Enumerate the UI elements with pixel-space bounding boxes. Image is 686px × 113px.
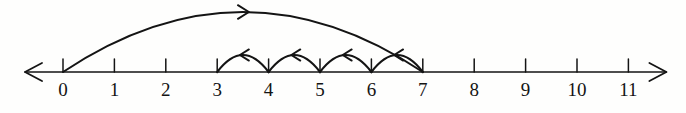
number-line-figure: 01234567891011 (0, 0, 686, 113)
tick-label-4: 4 (249, 80, 289, 99)
tick-label-11: 11 (608, 80, 648, 99)
tick-label-7: 7 (403, 80, 443, 99)
forward-jump-arc (63, 12, 423, 72)
tick-label-8: 8 (454, 80, 494, 99)
tick-label-5: 5 (300, 80, 340, 99)
tick-label-6: 6 (351, 80, 391, 99)
tick-label-0: 0 (43, 80, 83, 99)
tick-label-2: 2 (146, 80, 186, 99)
tick-label-9: 9 (506, 80, 546, 99)
jump-arcs-group (63, 5, 423, 72)
tick-label-10: 10 (557, 80, 597, 99)
tick-marks-group (63, 59, 628, 72)
tick-label-3: 3 (197, 80, 237, 99)
tick-label-1: 1 (94, 80, 134, 99)
